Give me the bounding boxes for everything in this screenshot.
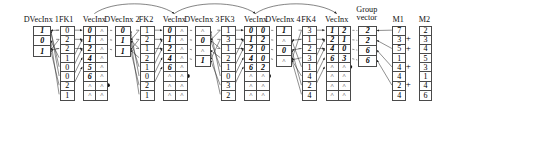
plus-operator: + [406,79,411,89]
table-cell[interactable]: 1 [116,46,130,56]
table-vecinx4[interactable]: 1246^^^^2103^^^^ [326,26,351,101]
table-vecinx1[interactable]: 012456^^^^^^^^^^ [83,26,108,101]
table-cell[interactable]: ^ [96,91,107,100]
table-cell[interactable]: 6 [420,91,432,100]
table-cell[interactable]: ^ [176,82,187,91]
table-cell[interactable]: 2 [222,91,235,100]
table-cell[interactable]: ^ [245,82,256,91]
subcolumn-right-vecinx2: ^^^^^^^^ [175,27,187,100]
table-cell[interactable]: ^ [339,91,350,100]
table-cell[interactable]: ^ [164,91,175,100]
table-cell[interactable]: 0 [196,36,210,46]
table-cell[interactable]: 2 [141,82,154,91]
table-dvecinx2[interactable]: 011 [115,26,131,57]
table-cell[interactable]: ^ [96,27,107,36]
table-cell[interactable]: 1 [141,91,154,100]
table-cell[interactable]: ^ [196,46,210,56]
table-cell[interactable]: 1 [277,27,291,37]
table-cell[interactable]: ^ [176,72,187,81]
table-cell[interactable]: 1 [116,36,130,46]
subcolumn-right-vecinx3: 02002^^^ [256,27,268,100]
table-cell[interactable]: 0 [116,27,130,37]
table-cell[interactable]: ^ [196,27,210,37]
table-cell[interactable]: ^ [277,56,291,66]
table-cell[interactable]: ^ [84,91,95,100]
table-cell[interactable]: ^ [339,82,350,91]
table-cell[interactable]: ^ [339,63,350,72]
table-cell[interactable]: 6 [359,56,376,66]
table-cell[interactable]: 1 [34,46,50,56]
table-cell[interactable]: ^ [176,91,187,100]
table-fk4[interactable]: 31231424 [302,26,317,101]
table-m1[interactable]: 73514424 [392,26,406,101]
table-cell[interactable]: ^ [327,91,338,100]
plus-operator: + [406,43,411,53]
table-groupvector[interactable]: 2266 [358,26,377,67]
table-cell[interactable]: ^ [164,72,175,81]
subcolumn-right-vecinx4: 2103^^^^ [338,27,350,100]
table-cell[interactable]: ^ [96,72,107,81]
table-cell[interactable]: 4 [393,91,405,100]
table-cell[interactable]: ^ [176,54,187,63]
table-cell[interactable]: 1 [196,56,210,66]
subcolumn-left-vecinx3: 01246^^^ [245,27,256,100]
table-cell[interactable]: ^ [164,82,175,91]
table-cell[interactable]: 1 [34,27,50,37]
table-cell[interactable]: ^ [84,82,95,91]
table-cell[interactable]: ^ [176,63,187,72]
subcolumn-left-vecinx4: 1246^^^^ [327,27,338,100]
table-cell[interactable]: 2 [61,82,74,91]
table-cell[interactable]: ^ [176,45,187,54]
table-vecinx2[interactable]: 01246^^^^^^^^^^^ [163,26,188,101]
table-cell[interactable]: 0 [34,36,50,46]
table-cell[interactable]: 0 [277,46,291,56]
table-cell[interactable]: ^ [339,72,350,81]
table-cell[interactable]: 3 [339,54,350,63]
table-cell[interactable]: 6 [84,72,95,81]
table-cell[interactable]: ^ [327,72,338,81]
table-cell[interactable]: ^ [176,36,187,45]
table-fk3[interactable]: 13121032 [221,26,236,101]
table-cell[interactable]: 6 [245,63,256,72]
table-dvecinx1[interactable]: 101 [33,26,51,57]
subcolumn-left-vecinx2: 01246^^^ [164,27,175,100]
table-cell[interactable]: ^ [257,72,268,81]
table-cell[interactable]: ^ [96,45,107,54]
table-cell[interactable]: ^ [327,63,338,72]
table-cell[interactable]: 2 [303,82,316,91]
table-cell[interactable]: ^ [277,36,291,46]
table-cell[interactable]: 2 [359,27,376,37]
table-cell[interactable]: ^ [96,82,107,91]
table-dvecinx3[interactable]: ^0^1 [195,26,211,67]
column-title-m2: M2 [384,15,464,24]
table-cell[interactable]: ^ [96,54,107,63]
table-cell[interactable]: 4 [420,82,432,91]
subcolumn-right-vecinx1: ^^^^^^^^ [95,27,107,100]
plus-operator: + [406,61,411,71]
table-cell[interactable]: 2 [257,63,268,72]
table-cell[interactable]: 4 [303,91,316,100]
table-fk1[interactable]: 02210021 [60,26,75,101]
table-cell[interactable]: ^ [245,91,256,100]
table-dvecinx4[interactable]: 1^0^ [276,26,292,67]
column-title-line1: M2 [419,15,430,24]
table-fk2[interactable]: 12121021 [140,26,155,101]
table-cell[interactable]: 6 [359,46,376,56]
table-m2[interactable]: 23453146 [419,26,433,101]
table-vecinx3[interactable]: 01246^^^02002^^^ [244,26,269,101]
table-cell[interactable]: ^ [257,91,268,100]
table-cell[interactable]: 2 [393,82,405,91]
table-cell[interactable]: ^ [257,82,268,91]
table-cell[interactable]: ^ [327,82,338,91]
table-cell[interactable]: 1 [61,91,74,100]
subcolumn-left-vecinx1: 012456^^ [84,27,95,100]
table-cell[interactable]: ^ [176,27,187,36]
table-cell[interactable]: ^ [96,36,107,45]
table-cell[interactable]: 6 [327,54,338,63]
table-cell[interactable]: 3 [222,82,235,91]
table-cell[interactable]: 6 [164,63,175,72]
table-cell[interactable]: ^ [96,63,107,72]
table-cell[interactable]: 2 [359,36,376,46]
table-cell[interactable]: ^ [245,72,256,81]
vector-index-join-diagram: DVecInx 1101FK102210021VecInx012456^^^^^… [0,0,546,152]
